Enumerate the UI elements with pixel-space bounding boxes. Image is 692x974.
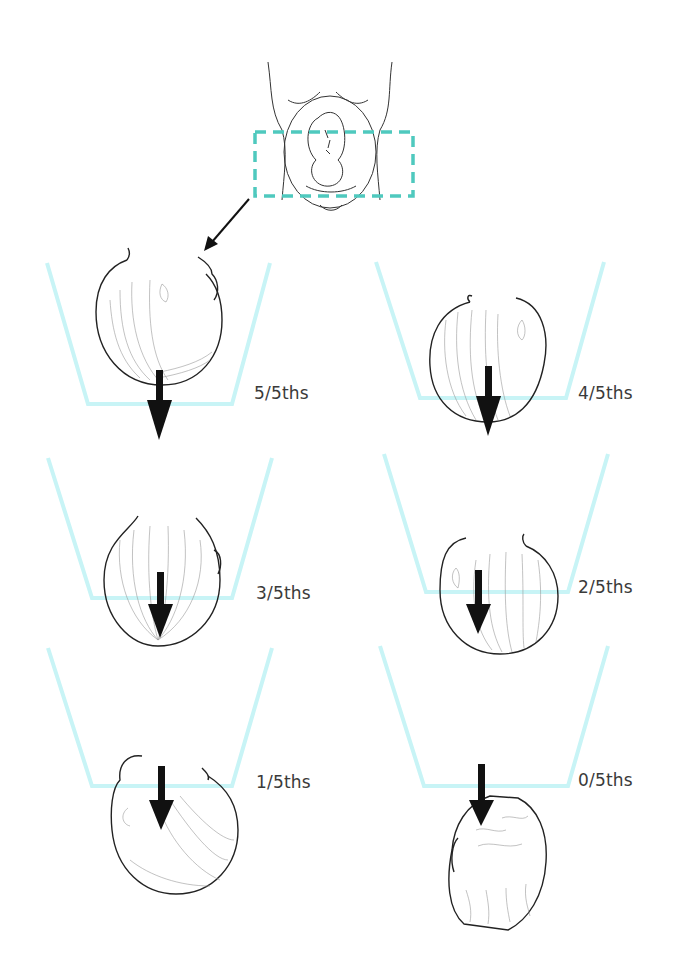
stage-label: 4/5ths <box>578 383 633 403</box>
stage-0-of-5: 0/5ths <box>346 640 692 974</box>
stage-label: 5/5ths <box>254 383 309 403</box>
stage-label: 3/5ths <box>256 583 311 603</box>
pelvis-outline <box>380 646 608 786</box>
descent-arrow-icon <box>469 764 494 826</box>
pelvis-outline <box>48 648 272 786</box>
descent-arrow-icon <box>476 366 501 436</box>
stage-label: 0/5ths <box>578 770 633 790</box>
descent-arrow-icon <box>147 370 172 440</box>
stage-2-of-5: 2/5ths <box>346 450 692 650</box>
fetal-head-drawing <box>449 796 546 930</box>
descent-arrow-icon <box>148 572 173 638</box>
pointer-arrow-icon <box>0 0 692 260</box>
descent-arrow-icon <box>466 570 491 634</box>
stage-3-of-5: 3/5ths <box>0 450 346 650</box>
descent-arrow-icon <box>149 766 174 830</box>
pelvis-outline <box>384 454 608 592</box>
stage-label: 2/5ths <box>578 577 633 597</box>
fetal-head-drawing <box>111 756 238 894</box>
maternal-abdomen-illustration <box>0 0 692 240</box>
stage-4-of-5: 4/5ths <box>346 240 692 450</box>
stage-5-of-5: 5/5ths <box>0 240 346 450</box>
stage-1-of-5: 1/5ths <box>0 640 346 900</box>
stage-label: 1/5ths <box>256 772 311 792</box>
